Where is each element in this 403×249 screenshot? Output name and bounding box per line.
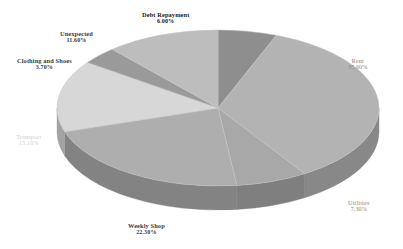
pie-label-debt-repayment: Debt Repayment6.00% [142, 11, 189, 25]
pie-label-name: Utilities [348, 199, 370, 206]
pie-label-name: Rent [348, 57, 367, 64]
pie-label-percent: 3.70% [17, 64, 72, 71]
pie-label-name: Weekly Shop [128, 222, 165, 229]
pie-label-percent: 11.60% [60, 37, 93, 44]
pie-label-transport: Transport15.10% [16, 133, 42, 147]
pie-label-percent: 6.00% [142, 18, 189, 25]
pie-label-percent: 22.30% [128, 229, 165, 236]
pie-label-name: Clothing and Shoes [17, 57, 72, 64]
pie-label-weekly-shop: Weekly Shop22.30% [128, 222, 165, 236]
pie-label-percent: 7.30% [348, 206, 370, 213]
pie-label-unexpected: Unexpected11.60% [60, 30, 93, 44]
pie-chart: Debt Repayment6.00%Rent35.60%Utilities7.… [0, 0, 403, 249]
pie-label-percent: 15.10% [16, 140, 42, 147]
pie-top-faces [57, 30, 379, 186]
pie-label-name: Transport [16, 133, 42, 140]
pie-label-utilities: Utilities7.30% [348, 199, 370, 213]
pie-label-rent: Rent35.60% [348, 57, 367, 71]
pie-label-name: Unexpected [60, 30, 93, 37]
pie-label-name: Debt Repayment [142, 11, 189, 18]
pie-label-clothing-and-shoes: Clothing and Shoes3.70% [17, 57, 72, 71]
pie-label-percent: 35.60% [348, 64, 367, 71]
